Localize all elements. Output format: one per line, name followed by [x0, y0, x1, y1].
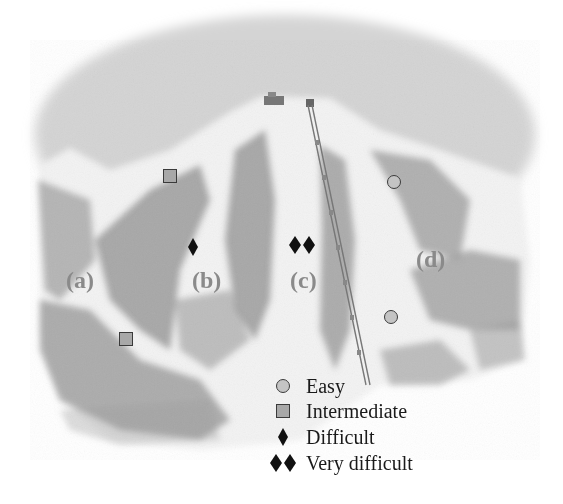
legend-label: Difficult [306, 426, 375, 449]
legend-label: Easy [306, 375, 345, 398]
trail-label-c: (c) [290, 268, 317, 292]
trail-label-b: (b) [192, 268, 221, 292]
intermediate-square-icon [119, 332, 133, 346]
diamond-icon [278, 428, 288, 446]
difficult-diamond-icon [188, 238, 198, 256]
legend-label: Intermediate [306, 400, 407, 423]
trail-label-a: (a) [66, 268, 94, 292]
legend-item-easy: Easy [268, 374, 345, 398]
legend-label: Very difficult [306, 452, 413, 475]
easy-circle-icon [384, 310, 398, 324]
legend-item-intermediate: Intermediate [268, 399, 407, 423]
square-icon [276, 404, 290, 418]
very-difficult-double-diamond-icon [289, 236, 315, 254]
circle-icon [276, 379, 290, 393]
double-diamond-icon [270, 454, 296, 472]
intermediate-square-icon [163, 169, 177, 183]
legend-item-very-difficult: Very difficult [268, 451, 413, 475]
legend-item-difficult: Difficult [268, 425, 375, 449]
trail-label-d: (d) [416, 247, 445, 271]
easy-circle-icon [387, 175, 401, 189]
